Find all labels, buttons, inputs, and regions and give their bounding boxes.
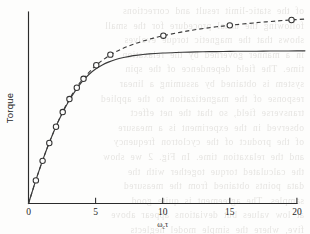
x-tick-label-0: 0: [26, 207, 31, 217]
torque-vs-omega-tau-chart: 0 5 10 15 20 ωcτ Torque: [0, 0, 310, 234]
data-point-marker: [47, 140, 52, 145]
data-point-marker: [94, 63, 99, 68]
theory-solid-curve: [29, 51, 305, 204]
y-axis-title: Torque: [4, 93, 15, 123]
x-axis-ticks: [29, 198, 297, 204]
data-point-marker: [81, 76, 86, 81]
x-tick-label-10: 10: [158, 207, 168, 217]
data-point-marker: [289, 17, 294, 22]
data-point-marker: [227, 23, 232, 28]
data-point-marker: [74, 85, 79, 90]
x-axis-tick-labels: 0 5 10 15 20: [26, 207, 302, 217]
figure-container: of the static-limit result and correctio…: [0, 0, 310, 234]
data-point-marker: [108, 52, 113, 57]
data-point-marker: [67, 96, 72, 101]
data-point-markers: [33, 17, 294, 183]
experimental-dashed-curve: [29, 19, 305, 203]
x-axis-title-tau: τ: [165, 220, 169, 229]
data-point-marker: [161, 33, 166, 38]
data-point-marker: [40, 158, 45, 163]
data-point-marker: [53, 124, 58, 129]
data-point-marker: [60, 109, 65, 114]
data-point-marker: [33, 178, 38, 183]
x-axis-title: ωcτ: [157, 220, 169, 230]
x-tick-label-5: 5: [93, 207, 98, 217]
x-tick-label-20: 20: [292, 207, 302, 217]
x-tick-label-15: 15: [225, 207, 235, 217]
